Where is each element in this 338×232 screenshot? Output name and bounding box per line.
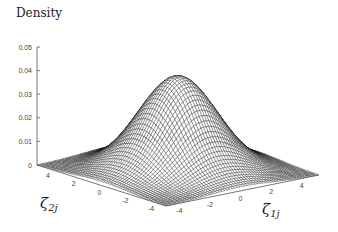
x-tick-label: -4 [176,207,182,214]
z-tick-label: 0.03 [18,91,32,98]
x-tick-label: -2 [207,201,213,208]
z-tick-label: 0 [28,162,32,169]
x-tick-label: 2 [269,188,273,195]
x-tick-label: 4 [300,182,304,189]
y-tick-label: 4 [46,172,50,179]
y-axis-label: ζ2j [40,194,58,213]
z-tick-label: 0.05 [18,44,32,51]
surface-mesh [37,76,319,206]
x-tick-label: 0 [239,195,243,202]
y-tick-label: 0 [98,189,102,196]
y-tick-label: -2 [122,197,128,204]
density-surface-plot: 00.010.020.030.040.05-4-2024-4-2024 ζ2j … [0,0,338,232]
y-tick-label: 2 [72,180,76,187]
x-axis-label: ζ1j [262,200,280,219]
z-tick-label: 0.02 [18,114,32,121]
z-tick-label: 0.01 [18,138,32,145]
y-tick-label: -4 [148,205,154,212]
z-tick-label: 0.04 [18,67,32,74]
